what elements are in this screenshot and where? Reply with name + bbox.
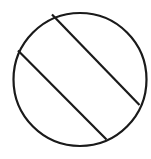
circle-diagram	[0, 0, 151, 159]
diagram-figure	[0, 0, 151, 159]
circle-outline	[14, 13, 147, 146]
upper-chord-line	[52, 15, 140, 106]
